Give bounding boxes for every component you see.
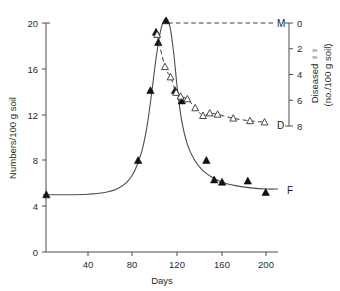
series-end-label-M: M — [277, 18, 285, 29]
left-tick-label-16: 16 — [27, 64, 38, 75]
right-tick-label-0: 0 — [297, 18, 302, 29]
datapoint-F-10 — [218, 178, 225, 185]
right-axis-title-line1: Diseased ♀♀ — [309, 47, 320, 104]
x-tick-label-160: 160 — [214, 259, 230, 270]
left-axis-ticks — [42, 23, 46, 252]
datapoint-F-8 — [203, 157, 210, 164]
series-D — [154, 31, 268, 125]
left-axis-title: Numbers/100 g soil — [7, 97, 18, 179]
right-tick-label-8: 8 — [297, 121, 302, 132]
right-tick-label-2: 2 — [297, 43, 302, 54]
left-tick-label-20: 20 — [27, 18, 38, 29]
x-tick-label-40: 40 — [83, 259, 94, 270]
datapoint-F-2 — [147, 87, 154, 94]
left-tick-label-0: 0 — [33, 247, 38, 258]
chart-svg: 0 4 8 12 16 20 40 80 120 160 200 — [0, 0, 340, 291]
datapoint-D-8 — [206, 110, 213, 116]
series-end-label-D: D — [277, 120, 284, 131]
datapoint-F-4 — [155, 39, 162, 46]
right-axis-tick-labels: 0 2 4 6 8 — [297, 18, 302, 132]
datapoint-D-2 — [167, 73, 174, 79]
series-F — [43, 17, 278, 198]
datapoint-D-1 — [162, 63, 169, 69]
x-tick-label-80: 80 — [127, 259, 138, 270]
datapoint-F-11 — [244, 177, 251, 184]
datapoint-D-5 — [184, 95, 191, 101]
right-tick-label-6: 6 — [297, 95, 302, 106]
left-tick-label-12: 12 — [27, 110, 38, 121]
datapoint-D-6 — [192, 104, 199, 110]
x-axis-tick-labels: 40 80 120 160 200 — [83, 259, 274, 270]
x-axis-title: Days — [151, 275, 173, 286]
right-axis-ticks — [289, 23, 293, 126]
datapoint-F-1 — [134, 157, 141, 164]
x-tick-label-120: 120 — [169, 259, 185, 270]
left-axis-tick-labels: 0 4 8 12 16 20 — [27, 18, 38, 258]
left-tick-label-8: 8 — [33, 155, 38, 166]
right-axis-title-line2: (no./100 g soil) — [322, 44, 333, 107]
figure-container: 0 4 8 12 16 20 40 80 120 160 200 — [0, 0, 340, 291]
x-tick-label-200: 200 — [258, 259, 274, 270]
datapoint-D-11 — [247, 117, 254, 123]
left-tick-label-4: 4 — [33, 201, 38, 212]
plot-data-layer — [43, 17, 278, 198]
series-end-label-F: F — [287, 185, 293, 196]
x-axis-ticks — [88, 252, 266, 256]
right-tick-label-4: 4 — [297, 69, 302, 80]
